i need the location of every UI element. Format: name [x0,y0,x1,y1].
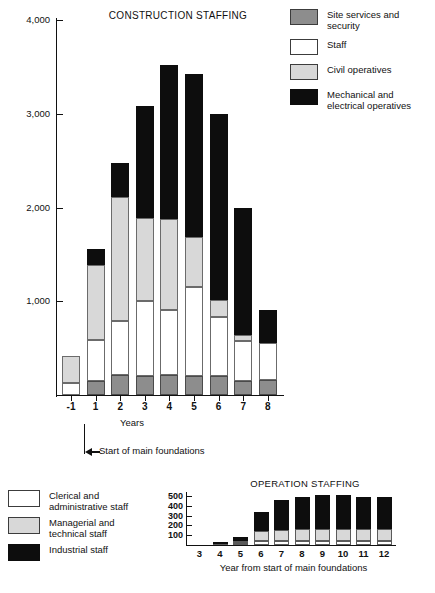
legend-label: Civil operatives [327,63,435,75]
bar-segment [136,218,154,301]
legend-item: Site services andsecurity [290,8,435,31]
legend-label: Mechanical andelectrical operatives [327,88,435,111]
bar-segment [295,541,310,545]
lower-legend: Clerical andadministrative staffManageri… [8,490,148,566]
bar-segment [315,541,330,545]
bar-segment [356,529,371,540]
bar-segment [233,543,248,545]
bar-segment [87,249,105,265]
bar-segment [111,197,129,321]
bar-segment [210,114,228,301]
lower-x-tick-label: 7 [272,548,292,559]
bar-segment [254,541,269,545]
bar-segment [254,512,269,531]
legend-label: Industrial staff [49,544,148,555]
bar-segment [315,529,330,541]
bar-segment [233,541,248,543]
lower-x-axis-title: Year from start of main foundations [186,562,401,573]
staff-swatch [290,39,318,55]
bar-segment [210,300,228,317]
bar-segment [377,497,392,529]
bar-segment [234,341,252,381]
bar-segment [87,340,105,381]
bar-segment [356,541,371,545]
bar-segment [234,381,252,395]
upper-y-tick-label: 2,000 [2,202,50,213]
upper-legend: Site services andsecurityStaffCivil oper… [290,8,435,118]
legend-item: Clerical andadministrative staff [8,490,148,512]
site-services-swatch [290,9,318,25]
upper-x-tick-label: 1 [85,401,107,412]
bar-segment [254,531,269,541]
bar-segment [136,301,154,376]
upper-x-tick-label: 4 [158,401,180,412]
bar-segment [295,529,310,540]
lower-x-tick-label: 3 [190,548,210,559]
bar-segment [377,529,392,540]
bar-segment [87,381,105,395]
lower-y-tick-label: 400 [150,501,183,511]
bar-segment [185,237,203,288]
lower-x-tick-label: 4 [210,548,230,559]
foundation-annotation-label: Start of main foundations [99,445,205,456]
upper-x-tick-label: 6 [208,401,230,412]
upper-x-tick-label: 5 [183,401,205,412]
civil-operatives-swatch [290,64,318,80]
bar-segment [295,497,310,529]
foundation-arrow-icon [85,448,92,456]
bar-segment [336,529,351,541]
bar-segment [274,530,289,541]
lower-x-tick-label: 12 [374,548,394,559]
lower-bar-group [186,470,396,545]
legend-item: Civil operatives [290,63,435,81]
lower-x-tick-label: 11 [354,548,374,559]
bar-segment [160,219,178,310]
legend-item: Staff [290,38,435,56]
legend-item: Managerial andtechnical staff [8,517,148,539]
upper-y-tick-label: 4,000 [2,14,50,25]
upper-plot-area: 4,0003,0002,0001,000 -112345678 [0,0,290,420]
industrial-staff-swatch [8,544,40,561]
bar-segment [274,500,289,530]
upper-x-tick-label: 8 [257,401,279,412]
legend-label: Clerical andadministrative staff [49,490,148,512]
upper-y-tick-label: 1,000 [2,295,50,306]
bar-segment [136,106,154,218]
lower-y-tick-label: 300 [150,511,183,521]
bar-segment [210,376,228,395]
bar-segment [259,310,277,343]
upper-bar-group [56,0,284,395]
bar-segment [111,163,129,198]
operation-staffing-chart: OPERATION STAFFING Clerical andadministr… [0,470,435,593]
upper-x-tick-label: 7 [232,401,254,412]
lower-x-tick-label: 10 [333,548,353,559]
bar-segment [185,376,203,395]
clerical-admin-swatch [8,490,40,507]
lower-plot-area: 500400300200100 3456789101112 Year from … [150,470,435,593]
lower-x-tick-label: 8 [292,548,312,559]
bar-segment [336,541,351,545]
legend-item: Industrial staff [8,544,148,561]
bar-segment [210,317,228,376]
bar-segment [62,356,80,383]
lower-x-tick-label: 5 [231,548,251,559]
lower-y-tick-label: 500 [150,491,183,501]
bar-segment [111,321,129,375]
lower-x-tick-label: 9 [313,548,333,559]
bar-segment [185,287,203,376]
bar-segment [111,375,129,395]
lower-x-axis [186,545,396,546]
legend-label: Site services andsecurity [327,8,435,31]
upper-x-axis-title: Years [120,417,144,428]
bar-segment [356,497,371,529]
bar-segment [336,495,351,529]
construction-staffing-chart: CONSTRUCTION STAFFING 4,0003,0002,0001,0… [0,0,435,470]
lower-y-tick-label: 200 [150,520,183,530]
lower-x-tick-label: 6 [251,548,271,559]
bar-segment [213,542,228,544]
bar-segment [377,541,392,545]
bar-segment [62,383,80,395]
bar-segment [160,310,178,376]
bar-segment [87,265,105,340]
upper-y-tick-label: 3,000 [2,108,50,119]
